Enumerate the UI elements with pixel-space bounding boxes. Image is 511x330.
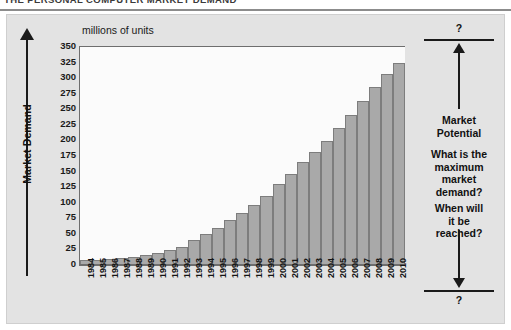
bar: [369, 87, 381, 265]
bar: [285, 174, 297, 264]
x-tick-cell: 1988: [128, 266, 140, 316]
x-tick-cell: 1984: [80, 266, 92, 316]
question-max-demand: What is the maximum market demand?: [414, 148, 504, 198]
page-title: THE PERSONAL COMPUTER MARKET DEMAND: [4, 0, 237, 5]
y-tick-label: 125: [38, 181, 76, 191]
top-rule: [424, 39, 494, 41]
market-potential-line-2: Potential: [414, 127, 504, 140]
bar: [248, 205, 260, 264]
y-tick-label: 250: [38, 103, 76, 113]
arrow-down-icon: [453, 278, 465, 288]
x-tick-cell: 1991: [164, 266, 176, 316]
units-caption: millions of units: [82, 24, 154, 36]
bar: [357, 101, 369, 264]
bar: [393, 63, 405, 264]
x-tick-cell: 1997: [236, 266, 248, 316]
bar: [236, 213, 248, 264]
y-tick-label: 275: [38, 88, 76, 98]
market-potential-panel: ? Market Potential What is the maximum m…: [414, 22, 504, 312]
x-tick-cell: 1990: [152, 266, 164, 316]
x-tick-cell: 1995: [212, 266, 224, 316]
y-tick-label: 100: [38, 197, 76, 207]
bar: [333, 128, 345, 264]
y-tick-label: 150: [38, 166, 76, 176]
question-max-demand-line-3: market: [414, 173, 504, 186]
y-tick-label: 200: [38, 134, 76, 144]
y-tick-label: 350: [38, 41, 76, 51]
x-tick-cell: 2010: [393, 266, 405, 316]
y-tick-label: 25: [38, 243, 76, 253]
x-tick-cell: 2003: [309, 266, 321, 316]
x-tick-cell: 2007: [357, 266, 369, 316]
bar: [260, 196, 272, 265]
x-tick-label: 2010: [398, 258, 408, 278]
market-demand-axis-group: Market Demand: [14, 28, 40, 276]
bottom-rule: [424, 290, 494, 292]
bar-series: [80, 46, 405, 264]
bar: [309, 152, 321, 264]
x-tick-cell: 1998: [248, 266, 260, 316]
market-potential-line-1: Market: [414, 114, 504, 127]
question-when-reached-line-1: When will: [414, 202, 504, 215]
question-mark-top: ?: [414, 22, 504, 34]
question-max-demand-line-1: What is the: [414, 148, 504, 161]
question-max-demand-line-2: maximum: [414, 161, 504, 174]
x-tick-cell: 2009: [381, 266, 393, 316]
x-tick-cell: 2001: [285, 266, 297, 316]
bar: [381, 74, 393, 264]
x-tick-cell: 2005: [333, 266, 345, 316]
x-axis-labels: 1984198519861987198819891990199119921993…: [80, 266, 405, 316]
x-tick-cell: 1996: [224, 266, 236, 316]
arrow-down-shaft: [458, 230, 460, 280]
y-tick-label: 175: [38, 150, 76, 160]
title-divider: [0, 9, 511, 11]
bar: [273, 184, 285, 264]
y-tick-label: 225: [38, 119, 76, 129]
x-tick-cell: 1989: [140, 266, 152, 316]
question-max-demand-line-4: demand?: [414, 186, 504, 199]
y-tick-label: 75: [38, 212, 76, 222]
bar: [321, 141, 333, 264]
x-tick-cell: 1994: [200, 266, 212, 316]
y-tick-label: 325: [38, 57, 76, 67]
y-tick-label: 0: [38, 259, 76, 269]
x-tick-cell: 2006: [345, 266, 357, 316]
question-mark-bottom: ?: [414, 294, 504, 306]
arrow-up-shaft: [458, 52, 460, 109]
market-potential-label: Market Potential: [414, 114, 504, 139]
x-tick-cell: 1987: [116, 266, 128, 316]
x-tick-cell: 2004: [321, 266, 333, 316]
chart-figure: THE PERSONAL COMPUTER MARKET DEMAND Mark…: [0, 0, 511, 330]
x-tick-cell: 1999: [260, 266, 272, 316]
y-axis-labels: 0255075100125150175200225250275300325350: [38, 40, 76, 272]
y-axis-title: Market Demand: [21, 84, 33, 204]
x-tick-cell: 1993: [188, 266, 200, 316]
x-tick-cell: 2008: [369, 266, 381, 316]
bar: [297, 162, 309, 264]
question-when-reached-line-2: it be: [414, 215, 504, 228]
x-tick-cell: 1985: [92, 266, 104, 316]
y-tick-label: 300: [38, 72, 76, 82]
bar: [345, 115, 357, 264]
y-tick-label: 50: [38, 228, 76, 238]
x-tick-cell: 1986: [104, 266, 116, 316]
x-tick-cell: 2000: [273, 266, 285, 316]
x-tick-cell: 1992: [176, 266, 188, 316]
x-tick-cell: 2002: [297, 266, 309, 316]
